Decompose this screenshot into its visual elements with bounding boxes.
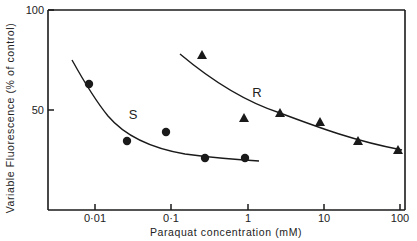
y-tick-label-100: 100 [26,4,44,16]
s-point [201,154,209,162]
r-point [315,117,325,126]
y-ticks [48,10,54,110]
s-fit-curve [72,60,259,161]
s-point [162,128,170,136]
series-label-s: S [129,107,138,122]
chart: 100 50 0·01 0·1 1 10 100 Paraquat concen… [0,0,417,241]
r-point [239,113,249,122]
y-tick-label-50: 50 [32,104,44,116]
x-axis-title: Paraquat concentration (mM) [150,226,302,238]
x-tick-label-10: 10 [318,212,330,224]
y-axis-title: Variable Fluorescence (% of control) [4,23,16,214]
x-ticks [95,204,400,210]
s-point [241,154,249,162]
x-tick-label-0.01: 0·01 [84,212,106,224]
r-fit-curve [180,54,402,150]
s-point [123,137,131,145]
x-tick-label-0.1: 0·1 [163,212,179,224]
x-tick-label-100: 100 [391,212,409,224]
x-tick-label-1: 1 [245,212,251,224]
r-point [197,50,207,59]
r-series-points [197,50,403,154]
series-label-r: R [252,85,261,100]
axes [48,10,405,210]
s-point [85,80,93,88]
